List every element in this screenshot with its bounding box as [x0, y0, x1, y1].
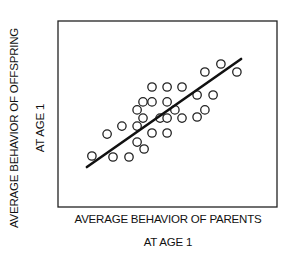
x-axis-label-line-2: AT AGE 1: [58, 236, 278, 248]
data-point: [140, 145, 148, 153]
data-point: [201, 106, 209, 114]
data-point: [163, 114, 171, 122]
data-point: [148, 83, 156, 91]
data-point: [233, 68, 241, 76]
data-point: [148, 98, 156, 106]
scatter-chart: AVERAGE BEHAVIOR OF OFFSPRING AT AGE 1 A…: [0, 0, 286, 256]
data-point: [217, 60, 225, 68]
data-point: [109, 153, 117, 161]
data-point: [139, 98, 147, 106]
regression-line: [87, 59, 241, 167]
data-point: [118, 122, 126, 130]
data-point: [139, 114, 147, 122]
data-point: [125, 153, 133, 161]
data-point: [201, 68, 209, 76]
data-point: [88, 152, 96, 160]
data-point: [178, 83, 186, 91]
data-point: [103, 130, 111, 138]
data-point: [133, 106, 141, 114]
data-point: [178, 114, 186, 122]
data-point: [209, 91, 217, 99]
data-point: [163, 83, 171, 91]
data-point: [163, 98, 171, 106]
x-axis-label-line-1: AVERAGE BEHAVIOR OF PARENTS: [58, 213, 278, 225]
data-point: [163, 129, 171, 137]
data-point: [148, 129, 156, 137]
data-point: [193, 113, 201, 121]
data-point: [133, 138, 141, 146]
